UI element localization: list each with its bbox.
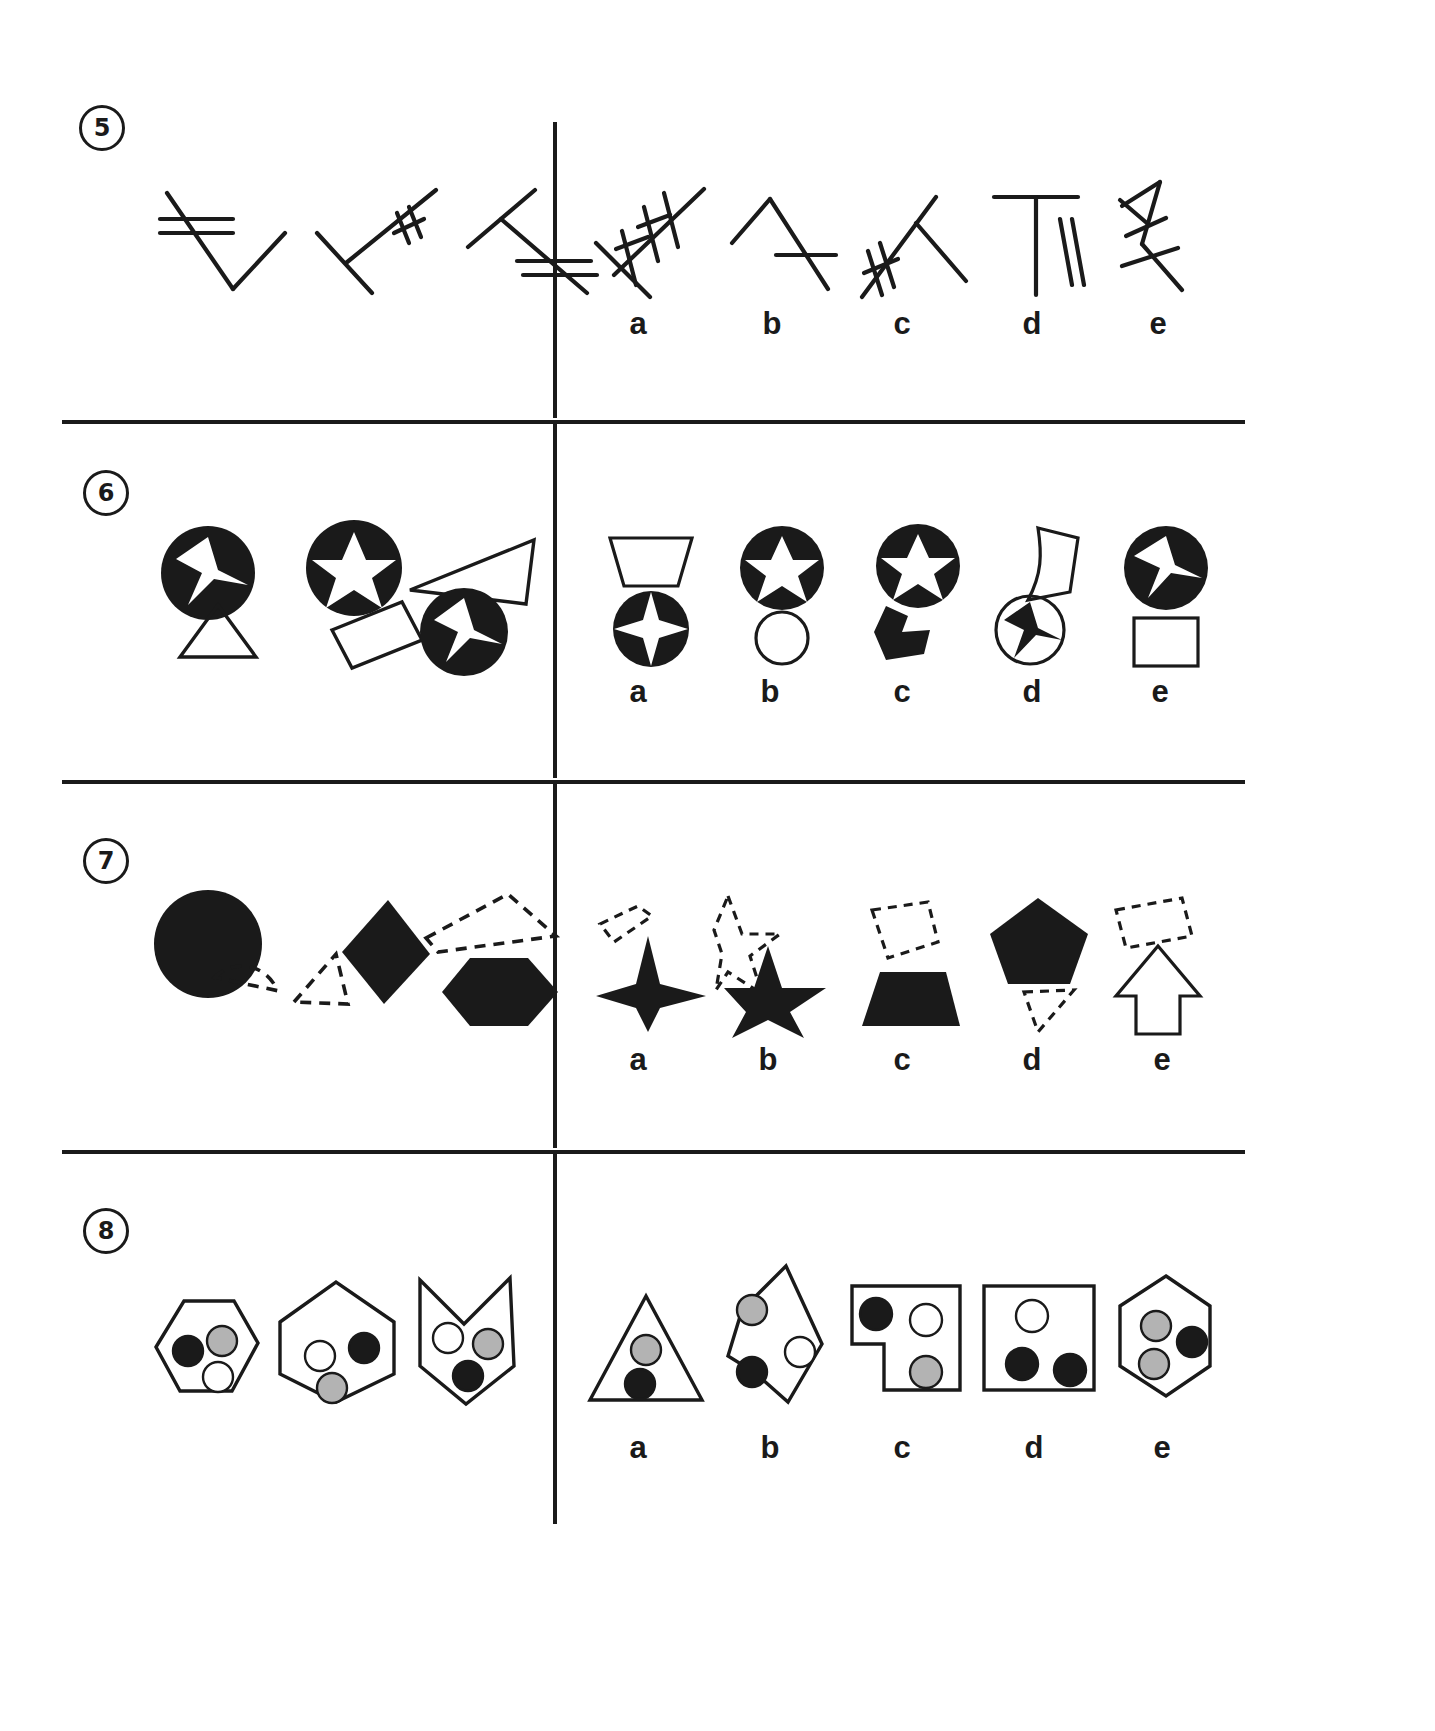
q7-label-e: e — [1132, 1044, 1192, 1075]
q7-option-e[interactable] — [1104, 892, 1224, 1037]
q8-label-a: a — [608, 1432, 668, 1463]
q5-label-a: a — [608, 308, 668, 339]
q8-label-e: e — [1132, 1432, 1192, 1463]
q5-label-c: c — [872, 308, 932, 339]
q8-stimulus-1 — [148, 1285, 268, 1410]
q5-option-e[interactable] — [1108, 178, 1228, 303]
q8-option-c[interactable] — [846, 1280, 971, 1400]
q7-stimulus-1 — [146, 888, 291, 1028]
question-number-label: 7 — [98, 849, 115, 873]
q6-label-a: a — [608, 676, 668, 707]
q5-label-d: d — [1002, 308, 1062, 339]
q5-stimulus-1 — [155, 185, 295, 300]
q7-stimulus-2 — [288, 892, 438, 1027]
q6-stimulus-1 — [152, 525, 282, 660]
q5-label-e: e — [1128, 308, 1188, 339]
q8-stimulus-3 — [410, 1272, 530, 1412]
q7-label-b: b — [738, 1044, 798, 1075]
q7-option-b[interactable] — [712, 890, 837, 1040]
q5-option-b[interactable] — [728, 185, 848, 300]
q8-stimulus-2 — [272, 1272, 407, 1412]
question-number-8: 8 — [83, 1208, 129, 1254]
column-divider-q8 — [553, 1154, 557, 1524]
q6-label-e: e — [1130, 676, 1190, 707]
q5-stimulus-3 — [463, 185, 603, 300]
q7-label-a: a — [608, 1044, 668, 1075]
q6-label-b: b — [740, 676, 800, 707]
question-number-label: 6 — [98, 481, 115, 505]
q6-label-d: d — [1002, 676, 1062, 707]
q6-option-d[interactable] — [986, 522, 1101, 667]
q5-option-c[interactable] — [858, 185, 978, 300]
q7-label-c: c — [872, 1044, 932, 1075]
test-page: 5 — [0, 0, 1435, 1731]
q6-label-c: c — [872, 676, 932, 707]
q5-option-d[interactable] — [988, 185, 1108, 300]
q8-label-b: b — [740, 1432, 800, 1463]
question-number-7: 7 — [83, 838, 129, 884]
row-divider-1 — [62, 420, 1245, 424]
row-divider-3 — [62, 1150, 1245, 1154]
q6-stimulus-3 — [402, 520, 562, 670]
q7-label-d: d — [1002, 1044, 1062, 1075]
q5-label-b: b — [742, 308, 802, 339]
q8-label-d: d — [1004, 1432, 1064, 1463]
q7-option-c[interactable] — [850, 896, 970, 1036]
q8-option-a[interactable] — [584, 1290, 709, 1410]
q6-option-c[interactable] — [856, 520, 971, 665]
q6-option-e[interactable] — [1110, 526, 1225, 666]
question-number-6: 6 — [83, 470, 129, 516]
question-number-label: 5 — [94, 116, 111, 140]
q8-option-e[interactable] — [1106, 1270, 1231, 1405]
q7-stimulus-3 — [418, 880, 578, 1030]
q7-option-a[interactable] — [590, 896, 710, 1036]
question-number-5: 5 — [79, 105, 125, 151]
row-divider-2 — [62, 780, 1245, 784]
q8-option-d[interactable] — [978, 1280, 1103, 1400]
q5-option-a[interactable] — [592, 185, 712, 300]
q8-label-c: c — [872, 1432, 932, 1463]
question-number-label: 8 — [98, 1219, 115, 1243]
q6-option-b[interactable] — [726, 524, 836, 664]
q7-option-d[interactable] — [980, 890, 1100, 1035]
q8-option-b[interactable] — [714, 1260, 839, 1415]
q5-stimulus-2 — [312, 185, 452, 300]
q6-option-a[interactable] — [596, 530, 706, 670]
